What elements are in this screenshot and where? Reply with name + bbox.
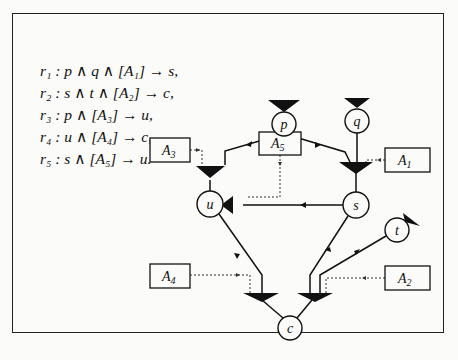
condition-arrow-icon bbox=[362, 276, 366, 280]
condition-arrow-icon bbox=[278, 162, 282, 166]
arrow-tick-icon bbox=[315, 142, 321, 148]
condition-arc-A4 bbox=[190, 275, 250, 293]
condition-arc-A3 bbox=[190, 150, 202, 166]
condition-arrow-icon bbox=[236, 273, 240, 277]
condition-arc-A1 bbox=[366, 160, 385, 162]
transition-r1-icon bbox=[339, 162, 373, 174]
node-label-c: c bbox=[287, 321, 294, 336]
arrow-tick-icon bbox=[234, 253, 240, 259]
arc-r4-c bbox=[262, 300, 283, 318]
node-label-s: s bbox=[353, 198, 359, 213]
arc-p-r1 bbox=[295, 137, 350, 162]
arc-s-r2 bbox=[310, 216, 348, 293]
transition-q-source-icon bbox=[344, 98, 370, 108]
transition-p-source-icon bbox=[268, 100, 300, 112]
condition-arc-A2 bbox=[326, 278, 385, 293]
transition-r4-icon bbox=[243, 293, 279, 302]
condition-arrow-icon bbox=[377, 158, 381, 162]
rule-network-diagram: A3 A5 A1 A4 A2 p q u s t c bbox=[0, 0, 458, 360]
condition-arrow-icon bbox=[196, 148, 200, 152]
condition-arc-A5 bbox=[247, 155, 280, 197]
transition-r3-icon bbox=[196, 166, 225, 178]
arrow-tick-icon bbox=[300, 202, 306, 208]
node-label-p: p bbox=[280, 117, 288, 132]
transition-r2-icon bbox=[297, 293, 333, 302]
node-label-q: q bbox=[354, 114, 361, 129]
arc-r2-c bbox=[297, 300, 312, 318]
arc-u-r4 bbox=[219, 214, 262, 293]
node-label-u: u bbox=[207, 197, 214, 212]
